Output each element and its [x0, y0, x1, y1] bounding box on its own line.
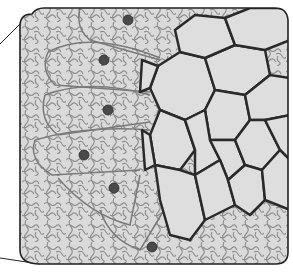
cell-tissue [0, 0, 293, 273]
epidermis-illustration [0, 0, 293, 273]
figure [0, 0, 293, 273]
